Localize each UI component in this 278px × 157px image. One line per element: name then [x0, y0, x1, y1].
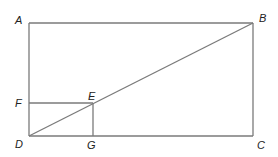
label-d: D	[15, 138, 23, 150]
label-e: E	[88, 90, 96, 102]
label-a: A	[14, 14, 22, 26]
geometry-diagram: A B C D E F G	[0, 0, 278, 157]
diagonal-db	[29, 23, 253, 136]
label-b: B	[259, 12, 266, 24]
label-c: C	[257, 139, 265, 151]
label-f: F	[15, 97, 23, 109]
label-g: G	[87, 139, 96, 151]
